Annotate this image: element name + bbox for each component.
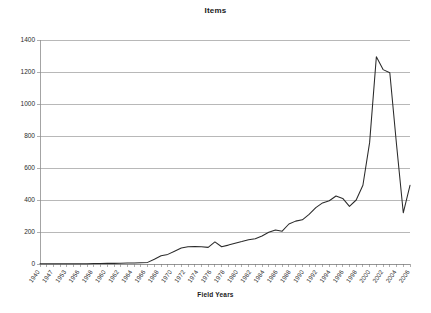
x-axis-tick-label: 1978	[212, 268, 226, 284]
x-axis-tick-label: 1960	[93, 268, 107, 284]
x-axis-tick-label: 2006	[397, 268, 411, 284]
x-axis-tick-label: 1976	[199, 268, 213, 284]
x-axis-title: Field Years	[0, 291, 431, 298]
y-axis-tick-label: 400	[24, 196, 35, 203]
x-axis-tick-label: 1964	[120, 268, 134, 284]
x-axis-tick-marks	[40, 264, 410, 267]
gridlines-group	[37, 40, 410, 264]
x-axis-tick-label: 2004	[384, 268, 398, 284]
x-axis-tick-label: 1988	[278, 268, 292, 284]
x-axis-tick-label: 1947	[40, 268, 54, 284]
x-axis-tick-label: 1992	[305, 268, 319, 284]
x-axis-tick-label: 1968	[146, 268, 160, 284]
x-axis-tick-label: 1986	[265, 268, 279, 284]
x-axis-tick-label: 2002	[371, 268, 385, 284]
x-axis-tick-label: 1996	[331, 268, 345, 284]
x-axis-tick-labels: 1940194719531956195819601962196419661968…	[27, 268, 411, 284]
chart-container: Items 0200400600800100012001400 19401947…	[0, 0, 431, 313]
y-axis-tick-label: 1400	[21, 36, 36, 43]
x-axis-tick-label: 1998	[344, 268, 358, 284]
y-axis-tick-label: 1000	[21, 100, 36, 107]
y-axis-tick-labels: 0200400600800100012001400	[21, 36, 36, 267]
x-axis-tick-label: 1994	[318, 268, 332, 284]
y-axis-tick-label: 0	[31, 260, 35, 267]
data-series-group	[40, 57, 410, 264]
x-axis-tick-label: 1940	[27, 268, 41, 284]
x-axis-tick-label: 1958	[80, 268, 94, 284]
x-axis-tick-label: 2000	[358, 268, 372, 284]
x-axis-tick-label: 1962	[106, 268, 120, 284]
y-axis-tick-label: 600	[24, 164, 35, 171]
x-axis-tick-label: 1984	[252, 268, 266, 284]
x-axis-tick-label: 1953	[54, 268, 68, 284]
y-axis-tick-label: 200	[24, 228, 35, 235]
x-axis-tick-label: 1956	[67, 268, 81, 284]
y-axis-tick-label: 800	[24, 132, 35, 139]
x-axis-tick-label: 1990	[291, 268, 305, 284]
x-axis-tick-label: 1982	[239, 268, 253, 284]
x-axis-tick-label: 1966	[133, 268, 147, 284]
y-axis-tick-label: 1200	[21, 68, 36, 75]
x-axis-tick-label: 1972	[173, 268, 187, 284]
x-axis-tick-label: 1980	[225, 268, 239, 284]
axes-group	[40, 40, 410, 264]
series-line-items	[40, 57, 410, 264]
x-axis-tick-label: 1974	[186, 268, 200, 284]
x-axis-tick-label: 1970	[159, 268, 173, 284]
chart-plot-svg: 0200400600800100012001400 19401947195319…	[0, 0, 431, 313]
